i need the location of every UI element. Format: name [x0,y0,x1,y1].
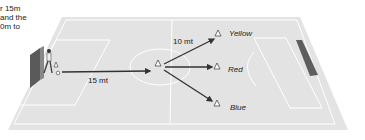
cone-label-red: Red [228,65,243,74]
distance-label-10m: 10 mt [173,37,193,46]
cone-label-blue: Blue [230,103,246,112]
soccer-field-diagram [0,0,365,140]
cone-label-yellow: Yellow [229,29,252,38]
distance-label-15m: 15 mt [88,76,108,85]
